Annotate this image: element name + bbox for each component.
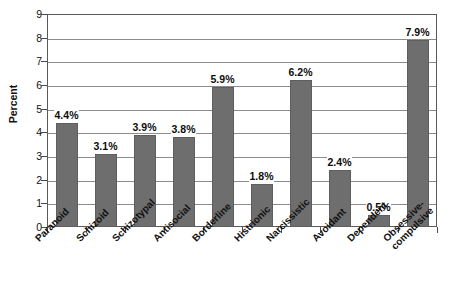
x-category-label-paranoid: Paranoid [33, 206, 71, 244]
x-category-label-schizoid: Schizoid [74, 207, 111, 244]
x-category-label-narcissistic: Narcissistic [264, 196, 311, 243]
x-category-label-schizotypal: Schizotypal [110, 197, 157, 244]
bar-chart: Percent 9 8 7 6 5 4 3 2 1 0 [0, 0, 460, 299]
x-category-label-obsessive-compulsive: Obsessive- compulsive [381, 197, 435, 251]
x-axis: Paranoid Schizoid Schizotypal Antisocial… [0, 0, 460, 299]
x-tick-mark [437, 227, 438, 233]
x-category-label-borderline: Borderline [190, 201, 233, 244]
x-category-label-antisocial: Antisocial [151, 202, 193, 244]
x-category-label-avoidant: Avoidant [310, 206, 348, 244]
